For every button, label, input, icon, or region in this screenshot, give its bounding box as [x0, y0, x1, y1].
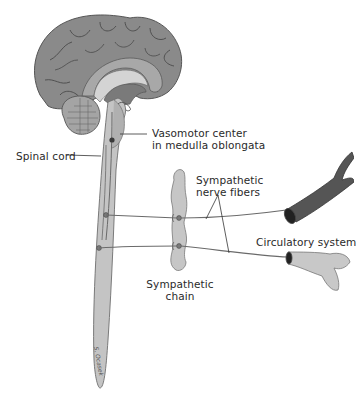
cerebellum — [62, 96, 100, 134]
vasomotor-center-dot — [109, 137, 114, 142]
label-spinal-cord: Spinal cord — [16, 150, 76, 162]
label-chain-line1: Sympathetic — [145, 278, 215, 290]
sympathetic-chain — [171, 170, 187, 271]
vein-vessel — [286, 252, 350, 290]
label-chain-line2: chain — [145, 290, 215, 302]
label-vasomotor-line2: in medulla oblongata — [152, 139, 265, 151]
label-sympathetic-nerve-fibers: Sympathetic nerve fibers — [196, 174, 263, 198]
label-circulatory-system: Circulatory system — [256, 236, 356, 248]
nerve-fibers — [99, 208, 300, 257]
label-nerve-fibers-line2: nerve fibers — [196, 186, 263, 198]
label-vasomotor-center: Vasomotor center in medulla oblongata — [152, 127, 265, 151]
artery-vessel — [282, 152, 354, 225]
cerebrum — [34, 15, 181, 109]
label-nerve-fibers-line1: Sympathetic — [196, 174, 263, 186]
label-sympathetic-chain: Sympathetic chain — [145, 278, 215, 302]
label-vasomotor-line1: Vasomotor center — [152, 127, 265, 139]
